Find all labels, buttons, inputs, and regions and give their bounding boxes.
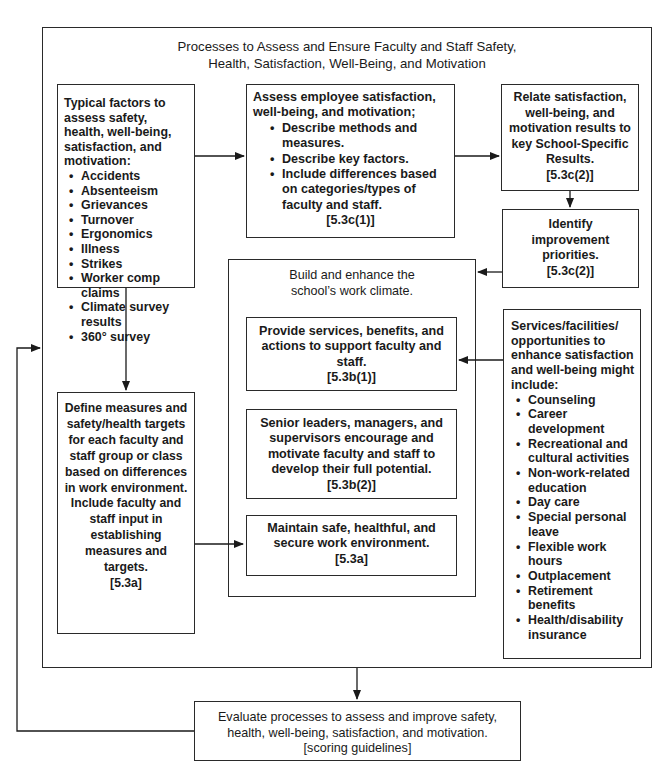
- service-item: Retirement benefits: [511, 584, 635, 613]
- service-item: Health/disability insurance: [511, 613, 635, 642]
- senior-leaders-text: Senior leaders, managers, and supervisor…: [251, 416, 452, 478]
- identify-text: Identify improvement priorities.: [511, 217, 630, 264]
- maintain-environment-ref: [5.3a]: [261, 552, 442, 567]
- outer-title: Processes to Assess and Ensure Faculty a…: [43, 39, 651, 72]
- service-item: Special personal leave: [511, 510, 635, 539]
- assess-heading: Assess employee satisfaction, well-being…: [253, 90, 448, 121]
- assess-item: Describe methods and measures.: [265, 121, 448, 152]
- provide-services-text: Provide services, benefits, and actions …: [251, 324, 452, 370]
- factors-list: Accidents Absenteeism Grievances Turnove…: [64, 169, 188, 344]
- factor-item: Turnover: [64, 213, 188, 228]
- services-box: Services/facilities/ opportunities to en…: [503, 309, 641, 659]
- work-climate-title: Build and enhance the school’s work clim…: [279, 268, 425, 299]
- services-list: Counseling Career development Recreation…: [511, 393, 635, 643]
- factors-box: Typical factors to assess safety, health…: [57, 84, 195, 288]
- evaluate-processes-box: Evaluate processes to assess and improve…: [194, 701, 521, 761]
- service-item: Counseling: [511, 393, 635, 408]
- relate-ref: [5.3c(2)]: [505, 168, 635, 184]
- relate-text: Relate satisfaction, well-being, and mot…: [505, 90, 635, 168]
- define-measures-text: Define measures and safety/health target…: [62, 401, 190, 576]
- evaluate-ref: [scoring guidelines]: [199, 741, 516, 757]
- outer-title-line-1: Processes to Assess and Ensure Faculty a…: [43, 39, 651, 56]
- senior-leaders-ref: [5.3b(2)]: [251, 478, 452, 493]
- provide-services-box: Provide services, benefits, and actions …: [246, 317, 457, 391]
- identify-priorities-box: Identify improvement priorities. [5.3c(2…: [502, 209, 639, 288]
- provide-services-ref: [5.3b(1)]: [251, 370, 452, 385]
- assess-satisfaction-box: Assess employee satisfaction, well-being…: [246, 84, 455, 238]
- assess-item: Include differences based on categories/…: [265, 167, 448, 213]
- define-measures-ref: [5.3a]: [62, 576, 190, 592]
- maintain-environment-text: Maintain safe, healthful, and secure wor…: [261, 521, 442, 552]
- evaluate-text: Evaluate processes to assess and improve…: [199, 710, 516, 741]
- identify-ref: [5.3c(2)]: [511, 264, 630, 280]
- maintain-environment-box: Maintain safe, healthful, and secure wor…: [246, 515, 457, 576]
- work-climate-box: Build and enhance the school’s work clim…: [228, 259, 476, 597]
- factors-heading: Typical factors to assess safety, health…: [64, 96, 188, 169]
- factor-item: Accidents: [64, 169, 188, 184]
- outer-title-line-2: Health, Satisfaction, Well-Being, and Mo…: [43, 56, 651, 73]
- assess-list: Describe methods and measures. Describe …: [253, 121, 448, 213]
- cut-off-figure-title: Figure 5.3 Faculty and Staff Well-Being …: [0, 0, 666, 4]
- factor-item: Climate survey results: [64, 300, 188, 329]
- service-item: Recreational and cultural activities: [511, 437, 635, 466]
- define-measures-box: Define measures and safety/health target…: [57, 392, 195, 634]
- relate-results-box: Relate satisfaction, well-being, and mot…: [501, 84, 639, 191]
- factor-item: Worker comp claims: [64, 271, 188, 300]
- factor-item: 360° survey: [64, 330, 188, 345]
- assess-ref: [5.3c(1)]: [253, 213, 448, 228]
- service-item: Non-work-related education: [511, 466, 635, 495]
- factor-item: Grievances: [64, 198, 188, 213]
- senior-leaders-box: Senior leaders, managers, and supervisor…: [246, 409, 457, 499]
- service-item: Day care: [511, 495, 635, 510]
- service-item: Career development: [511, 407, 635, 436]
- factor-item: Ergonomics: [64, 227, 188, 242]
- services-heading: Services/facilities/ opportunities to en…: [511, 319, 635, 393]
- factor-item: Illness: [64, 242, 188, 257]
- factor-item: Strikes: [64, 257, 188, 272]
- assess-item: Describe key factors.: [265, 152, 448, 167]
- factor-item: Absenteeism: [64, 184, 188, 199]
- service-item: Flexible work hours: [511, 540, 635, 569]
- service-item: Outplacement: [511, 569, 635, 584]
